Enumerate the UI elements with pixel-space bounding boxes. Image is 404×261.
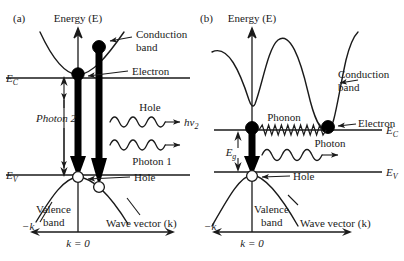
panel-b-phonon-label: Phonon <box>267 111 301 123</box>
panel-b-k-origin-label: k = 0 <box>240 237 264 249</box>
panel-a-valence-level-label: EV <box>5 169 19 184</box>
panel-a-conduction-level-label: EC <box>5 72 19 87</box>
panel-a-valence-band-label-line1: Valence <box>36 203 71 215</box>
panel-a-photon2-wave <box>110 140 165 150</box>
panel-b-label: (b) <box>200 12 213 25</box>
panel-a-photon1-energy-label: hν2 <box>184 116 198 131</box>
panel-a-valence-band-label-line2: band <box>43 216 65 228</box>
panel-b-electron-leader <box>338 124 356 126</box>
panel-b-bandgap-label: Eg <box>225 146 237 161</box>
panel-b-negative-k-label: −k <box>204 220 217 232</box>
panel-a-hole-circle-1 <box>73 172 84 183</box>
panel-a-negative-k-label: −k <box>22 220 35 232</box>
band-structure-figure: (a) Energy (E) −k k = 0 EC EV <box>0 0 404 261</box>
panel-b-valence-band-label-line2: band <box>261 216 283 228</box>
panel-b-electron-dot-1 <box>246 122 259 135</box>
panel-a-bandgap-label: Photon 2 <box>35 112 77 124</box>
panel-a-conduction-band-curve <box>40 32 124 75</box>
panel-b-wave-vector-label: Wave vector (k) <box>300 217 371 230</box>
panel-a-conduction-band-label-line1: Conduction <box>136 28 188 40</box>
panel-a-electron-dot-1 <box>72 68 84 80</box>
panel-b-hole-label: Hole <box>293 170 315 182</box>
panel-a-photon1-wave <box>110 117 165 127</box>
panel-b-photon-label: Photon <box>314 137 346 149</box>
panel-b: (b) Energy (E) −k k = 0 EC EV Eg <box>200 12 399 249</box>
panel-a-hole-label: Hole <box>134 171 156 183</box>
panel-a-photon2-label: Photon 1 <box>132 155 171 167</box>
panel-a-conduction-band-leader <box>110 37 132 41</box>
panel-b-hole-leader <box>262 176 290 177</box>
panel-a-energy-axis-label: Energy (E) <box>54 12 103 25</box>
panel-b-valence-band-curve <box>212 175 298 226</box>
panel-b-energy-axis-label: Energy (E) <box>228 12 277 25</box>
panel-b-recombination-arrow <box>244 128 260 176</box>
panel-a-label: (a) <box>13 12 26 25</box>
panel-b-conduction-band-label-line2: band <box>338 81 360 93</box>
panel-b-valence-band-label-line1: Valence <box>254 203 289 215</box>
panel-a-photon1-label: Hole <box>139 101 161 113</box>
panel-a-hole-circle-2 <box>94 182 105 193</box>
panel-b-valence-band-leader <box>288 195 298 205</box>
panel-a-electron-label: Electron <box>132 65 170 77</box>
panel-b-electron-label: Electron <box>358 117 396 129</box>
panel-a-recombination-arrow-1 <box>70 74 86 178</box>
panel-b-photon-wave <box>262 150 322 161</box>
panel-a-wave-vector-leader <box>127 198 140 215</box>
panel-a-electron-leader <box>88 71 128 76</box>
panel-b-electron-dot-2 <box>322 121 335 134</box>
panel-a-conduction-band-label-line2: band <box>136 41 158 53</box>
panel-b-hole-circle-1 <box>247 171 258 182</box>
panel-b-valence-level-label: EV <box>385 166 399 181</box>
panel-a-wave-vector-label: Wave vector (k) <box>106 217 177 230</box>
figure-svg: (a) Energy (E) −k k = 0 EC EV <box>0 0 404 261</box>
panel-a: (a) Energy (E) −k k = 0 EC EV <box>0 0 198 249</box>
panel-a-k-origin-label: k = 0 <box>66 237 90 249</box>
panel-b-conduction-band-label-line1: Conduction <box>338 68 390 80</box>
panel-a-electron-dot-2 <box>93 41 106 54</box>
panel-a-hole-leader <box>88 177 130 179</box>
